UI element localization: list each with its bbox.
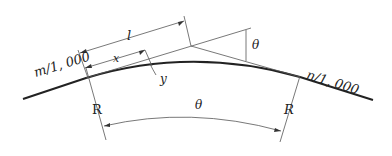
tangent-length-label: l	[127, 29, 131, 42]
x-arrow-right	[139, 50, 145, 55]
left-radius-label: R	[92, 103, 102, 116]
center-angle-arc	[104, 117, 281, 131]
left-tangent-extension	[86, 28, 251, 78]
y-leader	[150, 64, 156, 75]
l-dimension-right-ext	[184, 16, 191, 46]
center-theta-label: θ	[195, 99, 202, 111]
l-arrow-right	[178, 21, 184, 26]
arc-arrow-left	[104, 123, 110, 127]
arc-arrow-right	[274, 128, 281, 132]
l-dimension-line	[80, 21, 184, 53]
right-radius-label: R	[284, 103, 294, 116]
vertical-curve-diagram: m/1, 000 n/1, 000 l x y θ θ R R	[0, 0, 392, 156]
top-theta-label: θ	[252, 39, 259, 51]
x-label: x	[113, 53, 119, 64]
y-label: y	[160, 73, 167, 85]
